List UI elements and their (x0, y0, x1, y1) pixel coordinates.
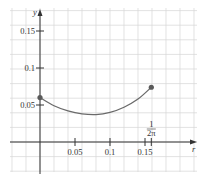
grid (10, 8, 197, 172)
chart: r y 0.050.10.1512π 0.050.10.15 (0, 0, 205, 177)
x-axis-label: r (192, 144, 196, 154)
x-tick-label: 0.1 (105, 147, 116, 157)
endpoint-dot (37, 95, 42, 100)
y-axis-label: y (32, 7, 37, 17)
x-tick-label-denominator: 2π (147, 128, 156, 138)
y-tick-label: 0.15 (20, 26, 35, 36)
x-tick-label: 0.05 (68, 147, 83, 157)
y-tick-label: 0.1 (24, 63, 35, 73)
y-tick-label: 0.05 (20, 100, 35, 110)
x-tick-label: 0.15 (138, 147, 153, 157)
x-ticks: 0.050.10.1512π (68, 119, 157, 157)
y-axis-arrow-icon (38, 9, 43, 16)
endpoint-dot (149, 85, 154, 90)
